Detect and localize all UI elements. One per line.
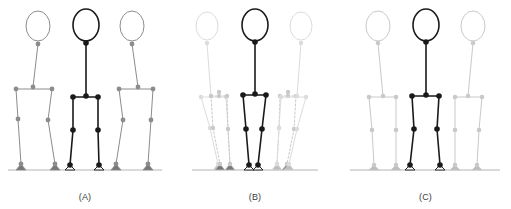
joint-marker-ankle-left — [246, 162, 252, 168]
joint-marker-ankle-right — [394, 163, 399, 168]
joint-marker-neck — [471, 41, 476, 46]
thigh-segment-right — [151, 89, 153, 120]
joint-marker-pelvis — [217, 94, 221, 98]
joint-marker-knee-left — [121, 118, 126, 123]
joint-marker-knee-left — [211, 126, 215, 130]
joint-marker-knee-right — [46, 118, 51, 123]
panel-c-label: (C) — [340, 192, 511, 203]
joint-marker-pelvis — [466, 94, 471, 99]
joint-marker-ankle-right — [53, 162, 58, 167]
head-ellipse — [290, 12, 312, 40]
joint-marker-ankle-left — [407, 162, 413, 168]
shank-segment-left — [372, 130, 374, 165]
joint-marker-ankle-right — [255, 162, 261, 168]
shank-segment-right — [258, 129, 262, 165]
joint-marker-knee-right — [477, 128, 482, 133]
spine-segment — [207, 43, 211, 96]
joint-marker-hip-left — [70, 94, 76, 100]
joint-marker-neck — [252, 39, 258, 45]
joint-marker-knee-left — [16, 117, 21, 122]
thigh-segment-left — [211, 96, 213, 128]
shank-segment-left — [116, 120, 123, 164]
panel-a-canvas — [0, 0, 170, 190]
joint-marker-neck — [205, 41, 209, 45]
thigh-segment-left — [243, 95, 246, 129]
joint-marker-ankle-left — [275, 162, 279, 166]
shank-segment-right — [148, 120, 151, 164]
spine-segment — [132, 44, 138, 87]
joint-marker-ankle-left — [372, 163, 377, 168]
joint-marker-pelvis — [136, 85, 141, 90]
head-ellipse — [73, 9, 99, 41]
joint-marker-knee-left — [370, 128, 375, 133]
spine-segment — [468, 43, 473, 96]
stick-figure-ghost-right-outer — [272, 12, 312, 170]
thigh-segment-right — [262, 95, 266, 129]
shank-segment-right — [477, 130, 479, 165]
stick-figure-ghost-right-inner — [272, 90, 298, 170]
thigh-segment-right — [227, 96, 228, 129]
panel-b-label: (B) — [170, 192, 340, 203]
stick-figure-center — [240, 9, 269, 170]
head-ellipse — [242, 9, 268, 41]
joint-marker-ankle-right — [228, 162, 232, 166]
joint-marker-pelvis — [423, 92, 429, 98]
head-ellipse — [366, 11, 390, 41]
joint-marker-knee-right — [295, 127, 299, 131]
stick-figure-ghost-right — [111, 11, 155, 170]
joint-marker-hip-right — [304, 95, 308, 99]
spine-segment — [378, 43, 383, 96]
joint-marker-neck — [130, 42, 135, 47]
spine-segment — [33, 44, 38, 87]
shank-segment-right — [228, 129, 230, 164]
spine-segment — [297, 43, 301, 96]
joint-marker-hip-left — [279, 95, 283, 99]
joint-marker-hip-right — [225, 94, 229, 98]
thigh-segment-left — [412, 96, 414, 129]
joint-marker-knee-left — [411, 126, 417, 132]
joint-marker-ankle-left — [114, 162, 119, 167]
thigh-segment-left — [16, 89, 18, 119]
joint-marker-hip-left — [14, 87, 19, 92]
head-ellipse — [413, 9, 439, 41]
joint-marker-knee-right — [149, 118, 154, 123]
joint-marker-hip-right — [394, 95, 399, 100]
joint-marker-neck — [217, 90, 221, 94]
joint-marker-hip-left — [409, 93, 415, 99]
joint-marker-hip-right — [480, 95, 485, 100]
panel-c-canvas — [340, 0, 511, 190]
joint-marker-knee-right — [95, 127, 101, 133]
joint-marker-ankle-right — [96, 162, 102, 168]
joint-marker-ankle-left — [218, 162, 222, 166]
joint-marker-knee-left — [277, 126, 281, 130]
stick-figure-ghost-left-inner — [209, 90, 235, 170]
joint-marker-pelvis — [252, 91, 258, 97]
joint-marker-neck — [423, 39, 429, 45]
head-ellipse — [120, 11, 144, 41]
joint-marker-knee-right — [259, 126, 265, 132]
joint-marker-ankle-right — [287, 162, 291, 166]
joint-marker-knee-right — [226, 127, 230, 131]
stick-figure-center — [405, 9, 445, 170]
panel-a: (A) — [0, 0, 170, 209]
stick-figure-ghost-left — [14, 11, 60, 170]
head-ellipse — [461, 11, 485, 41]
joint-marker-neck — [83, 40, 89, 46]
joint-marker-knee-left — [453, 128, 458, 133]
joint-marker-neck — [299, 41, 303, 45]
joint-marker-ankle-left — [453, 163, 458, 168]
joint-marker-knee-right — [394, 128, 399, 133]
thigh-segment-right — [294, 96, 296, 129]
joint-marker-neck — [286, 90, 290, 94]
joint-marker-hip-left — [117, 87, 122, 92]
shank-segment-left — [246, 129, 249, 165]
joint-marker-knee-left — [243, 126, 249, 132]
joint-marker-hip-right — [263, 92, 269, 98]
joint-marker-knee-right — [434, 126, 440, 132]
joint-marker-pelvis — [286, 94, 290, 98]
panel-b-canvas — [170, 0, 340, 190]
joint-marker-hip-right — [50, 87, 55, 92]
panel-b: (B) — [170, 0, 340, 209]
joint-marker-ankle-left — [19, 162, 24, 167]
stick-figure-ghost-right — [450, 11, 485, 170]
